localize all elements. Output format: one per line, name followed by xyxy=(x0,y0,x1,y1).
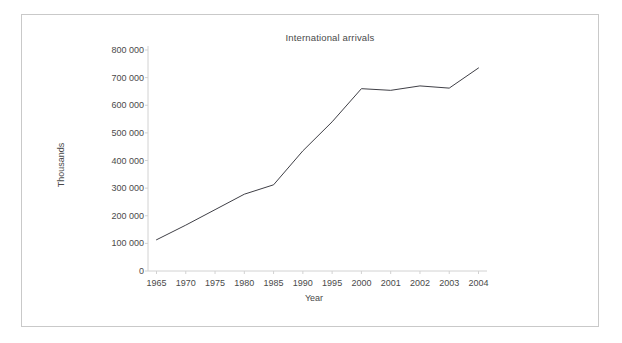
x-tick-label: 2001 xyxy=(381,278,401,289)
x-axis-title: Year xyxy=(148,293,480,303)
x-tick-label: 1995 xyxy=(322,278,342,289)
x-tick-label: 1965 xyxy=(146,278,166,289)
x-tick-label: 2002 xyxy=(410,278,430,289)
x-tick-label: 1975 xyxy=(205,278,225,289)
chart-figure: International arrivals 0100 000200 00030… xyxy=(0,0,622,343)
x-tick-label: 1985 xyxy=(264,278,284,289)
x-tick-label: 2004 xyxy=(468,278,488,289)
y-axis-title: Thousands xyxy=(56,0,66,110)
y-axis-title-text: Thousands xyxy=(56,110,66,220)
x-tick-label: 1970 xyxy=(176,278,196,289)
x-tick-label: 2000 xyxy=(351,278,371,289)
x-tick-label: 1990 xyxy=(293,278,313,289)
x-axis-tick-labels: 1965197019751980198519901995200020012002… xyxy=(0,0,622,343)
x-tick-label: 1980 xyxy=(234,278,254,289)
x-tick-label: 2003 xyxy=(439,278,459,289)
